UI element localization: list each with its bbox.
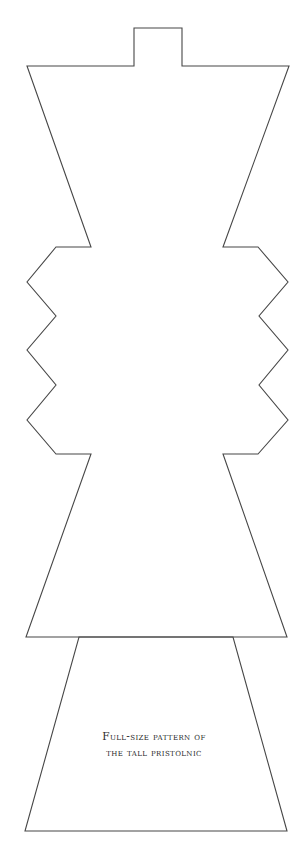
caption-line-1: Full-size pattern of xyxy=(0,728,308,744)
pristolnic-pattern-figure: Full-size pattern of the tall pristolnic xyxy=(0,0,308,862)
caption-line-2: the tall pristolnic xyxy=(0,744,308,760)
upper-body-outline xyxy=(26,28,289,637)
pattern-caption: Full-size pattern of the tall pristolnic xyxy=(0,728,308,760)
